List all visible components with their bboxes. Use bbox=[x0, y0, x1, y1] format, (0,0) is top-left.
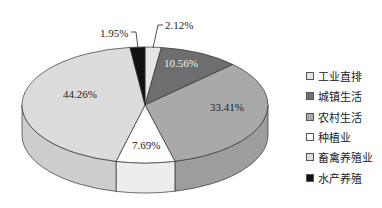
legend-item-industrial: 工业直排 bbox=[306, 66, 373, 86]
label-livestock: 44.26% bbox=[63, 88, 97, 100]
swatch-industrial bbox=[306, 72, 314, 80]
swatch-livestock bbox=[306, 153, 314, 161]
legend-label: 种植业 bbox=[318, 129, 351, 145]
legend-label: 畜禽养殖业 bbox=[318, 149, 373, 165]
legend-label: 工业直排 bbox=[318, 68, 362, 84]
pie-side bbox=[116, 161, 175, 193]
legend-label: 城镇生活 bbox=[318, 88, 362, 104]
leader-line bbox=[153, 25, 163, 48]
legend-item-livestock: 畜禽养殖业 bbox=[306, 147, 373, 167]
legend-label: 水产养殖 bbox=[318, 170, 362, 186]
label-industrial: 2.12% bbox=[165, 19, 193, 31]
label-aquaculture: 1.95% bbox=[100, 27, 128, 39]
legend-label: 农村生活 bbox=[318, 109, 362, 125]
legend-item-rural: 农村生活 bbox=[306, 107, 373, 127]
swatch-urban bbox=[306, 92, 314, 100]
label-urban: 10.56% bbox=[164, 57, 198, 69]
label-rural: 33.41% bbox=[210, 101, 244, 113]
leader-line bbox=[131, 32, 138, 48]
label-planting: 7.69% bbox=[132, 139, 160, 151]
legend: 工业直排 城镇生活 农村生活 种植业 畜禽养殖业 水产养殖 bbox=[306, 66, 373, 188]
swatch-rural bbox=[306, 113, 314, 121]
legend-item-planting: 种植业 bbox=[306, 127, 373, 147]
legend-item-urban: 城镇生活 bbox=[306, 86, 373, 106]
swatch-aquaculture bbox=[306, 174, 314, 182]
swatch-planting bbox=[306, 133, 314, 141]
legend-item-aquaculture: 水产养殖 bbox=[306, 167, 373, 187]
